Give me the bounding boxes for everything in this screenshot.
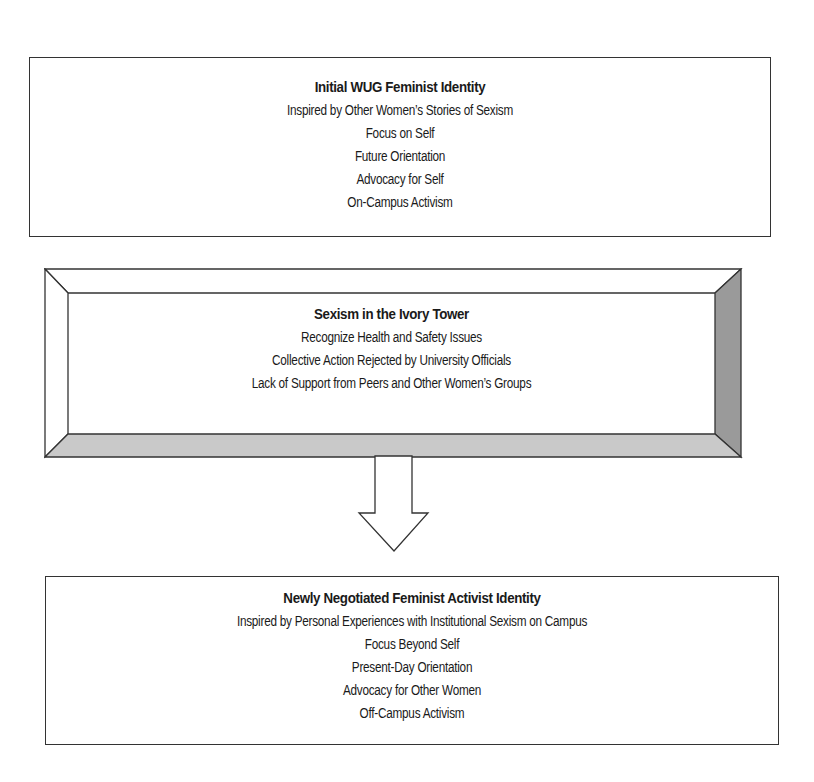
catalyst-title: Sexism in the Ivory Tower (113, 302, 669, 326)
initial-identity-title: Initial WUG Feminist Identity (82, 75, 718, 99)
initial-identity-item: On-Campus Activism (89, 191, 711, 214)
catalyst-item: Lack of Support from Peers and Other Wom… (120, 372, 663, 395)
result-identity-title: Newly Negotiated Feminist Activist Ident… (97, 586, 727, 610)
arrow-down-icon (355, 455, 435, 555)
result-identity-box: Newly Negotiated Feminist Activist Ident… (45, 576, 779, 745)
result-identity-item: Focus Beyond Self (105, 633, 720, 656)
result-identity-item: Inspired by Personal Experiences with In… (105, 610, 720, 633)
result-identity-item: Present-Day Orientation (105, 656, 720, 679)
catalyst-item: Collective Action Rejected by University… (120, 349, 663, 372)
catalyst-box: Sexism in the Ivory Tower Recognize Heal… (68, 293, 715, 434)
initial-identity-item: Advocacy for Self (89, 168, 711, 191)
result-identity-item: Off-Campus Activism (105, 702, 720, 725)
initial-identity-item: Inspired by Other Women’s Stories of Sex… (89, 99, 711, 122)
result-identity-item: Advocacy for Other Women (105, 679, 720, 702)
initial-identity-item: Focus on Self (89, 122, 711, 145)
initial-identity-box: Initial WUG Feminist Identity Inspired b… (29, 57, 771, 237)
initial-identity-item: Future Orientation (89, 145, 711, 168)
catalyst-item: Recognize Health and Safety Issues (120, 326, 663, 349)
